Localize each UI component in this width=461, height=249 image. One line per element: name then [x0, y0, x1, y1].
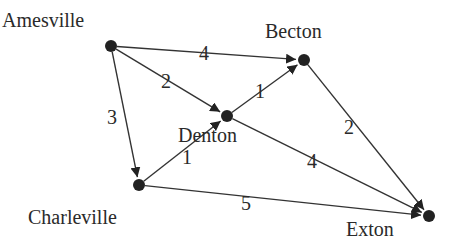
- node-charleville: [133, 179, 145, 191]
- edge-charleville-to-exton: [145, 186, 421, 216]
- node-becton: [298, 54, 310, 66]
- node-label-amesville: Amesville: [2, 9, 84, 31]
- edge-weight-label: 2: [161, 70, 171, 92]
- edge-weight-label: 5: [241, 192, 251, 214]
- node-label-exton: Exton: [346, 218, 394, 240]
- edge-weight-label: 2: [344, 116, 354, 138]
- edges-layer: [112, 46, 424, 215]
- node-denton: [221, 110, 233, 122]
- node-amesville: [105, 40, 117, 52]
- graph-diagram: 42311245 AmesvilleBectonDentonCharlevill…: [0, 0, 461, 249]
- node-label-denton: Denton: [178, 124, 237, 146]
- edge-weight-label: 1: [182, 146, 192, 168]
- node-label-charleville: Charleville: [28, 206, 117, 228]
- edge-weight-label: 1: [255, 80, 265, 102]
- edge-weight-label: 4: [199, 42, 209, 64]
- edge-becton-to-exton: [308, 65, 424, 210]
- edge-weight-label: 4: [307, 150, 317, 172]
- node-label-becton: Becton: [265, 20, 322, 42]
- edge-weight-label: 3: [107, 106, 117, 128]
- node-exton: [423, 210, 435, 222]
